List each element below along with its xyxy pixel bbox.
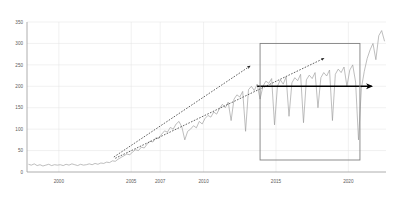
y-tick-label: 350	[15, 20, 23, 25]
y-tick-label: 0	[20, 170, 23, 175]
gridlines	[27, 22, 386, 172]
data-series-layer	[28, 31, 384, 166]
y-tick-label: 300	[15, 41, 23, 46]
x-tick-label: 2015	[271, 179, 282, 184]
y-tick-label: 150	[15, 105, 23, 110]
y-tick-label: 200	[15, 84, 23, 89]
lower-dashed-trend-arrow	[115, 58, 323, 158]
x-tick-label: 2007	[155, 179, 166, 184]
series-line	[28, 31, 384, 166]
y-tick-label: 100	[15, 127, 23, 132]
x-tick-label: 2020	[343, 179, 354, 184]
chart-container: 050100150200250300350 200020052007201020…	[0, 0, 398, 203]
chart-plot: 050100150200250300350 200020052007201020…	[0, 0, 398, 203]
y-tick-label: 250	[15, 63, 23, 68]
x-axis-tick-labels: 200020052007201020152020	[54, 179, 354, 184]
highlight-rectangle	[260, 43, 360, 160]
x-tick-label: 2005	[126, 179, 137, 184]
y-axis-tick-labels: 050100150200250300350	[15, 20, 23, 175]
axis-lines	[27, 22, 386, 172]
y-tick-label: 50	[18, 148, 24, 153]
x-tick-label: 2010	[198, 179, 209, 184]
annotation-layer	[114, 43, 372, 160]
x-tick-label: 2000	[54, 179, 65, 184]
